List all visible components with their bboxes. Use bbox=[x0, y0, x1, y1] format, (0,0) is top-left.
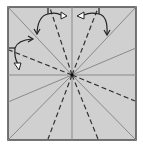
crease-pattern bbox=[0, 0, 143, 150]
origami-diagram bbox=[0, 0, 143, 150]
center-point bbox=[70, 73, 73, 76]
